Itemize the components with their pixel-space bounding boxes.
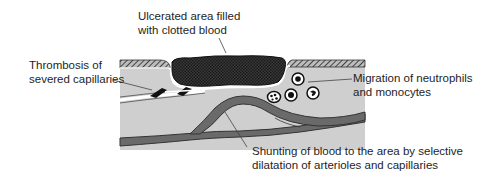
label-shunting-line1: Shunting of blood to the area by selecti…	[252, 144, 463, 158]
label-migration: Migration of neutrophils and monocytes	[353, 71, 473, 99]
label-thrombosis-line2: severed capillaries	[29, 72, 124, 86]
label-shunting: Shunting of blood to the area by selecti…	[252, 144, 463, 172]
label-thrombosis: Thrombosis of severed capillaries	[29, 58, 124, 86]
monocyte-cell	[292, 73, 304, 85]
monocyte-kidney-cell	[307, 87, 319, 99]
epidermis-right	[287, 60, 365, 67]
label-migration-line2: and monocytes	[353, 85, 473, 99]
label-ulcer: Ulcerated area filled with clotted blood	[138, 9, 240, 37]
label-ulcer-line1: Ulcerated area filled	[138, 9, 240, 23]
leader-ulcer	[219, 38, 226, 53]
label-migration-line1: Migration of neutrophils	[353, 71, 473, 85]
label-shunting-line2: dilatation of arterioles and capillaries	[252, 158, 463, 172]
label-ulcer-line2: with clotted blood	[138, 23, 240, 37]
neutrophil-cell	[268, 92, 281, 103]
label-thrombosis-line1: Thrombosis of	[29, 58, 124, 72]
lymphocyte-cell	[285, 89, 297, 101]
clot-ulcer	[172, 56, 286, 87]
